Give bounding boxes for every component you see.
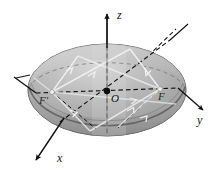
x-axis-label: x bbox=[57, 152, 62, 164]
y-axis-label: y bbox=[197, 114, 202, 126]
ellipsoid-figure: z y x O F′ F bbox=[0, 0, 213, 179]
origin-label: O bbox=[111, 93, 119, 104]
focus-left-label: F′ bbox=[39, 95, 48, 106]
z-axis-label: z bbox=[117, 9, 122, 21]
focus-right-label: F bbox=[158, 91, 165, 102]
ellipsoid-diagram-canvas bbox=[0, 0, 213, 179]
origin-dot-marker bbox=[104, 88, 110, 94]
focus-left-dot-marker bbox=[50, 90, 55, 95]
